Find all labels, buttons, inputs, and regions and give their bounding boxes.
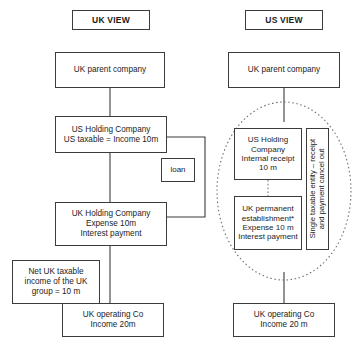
uk-holding-company-label: UK Holding Company Expense 10m Interest … [56,209,166,238]
us-operating-co-label: UK operating Co Income 20 m [234,310,334,329]
us-parent-company-box: UK parent company [228,52,340,88]
uk-permanent-establishment-label: UK permanent establishment* Expense 10 m… [235,204,301,242]
header-us-view-label: US VIEW [246,15,322,25]
tax-structure-diagram: UK VIEW US VIEW UK parent company US Hol… [0,0,364,355]
net-uk-taxable-income-box: Net UK taxable income of the UK group = … [12,260,100,304]
us-operating-co-box: UK operating Co Income 20 m [233,303,335,337]
loan-box: loan [161,158,195,182]
uk-permanent-establishment-box: UK permanent establishment* Expense 10 m… [234,196,302,250]
us-holding-company-box: US Holding Company Internal receipt 10 m [234,128,302,180]
header-uk-view-label: UK VIEW [73,15,149,25]
uk-operating-co-label: UK operating Co Income 20m [63,310,163,329]
uk-operating-co-box: UK operating Co Income 20m [62,303,164,337]
uk-us-holding-company-box: US Holding Company US taxable = Income 1… [55,116,167,153]
net-uk-taxable-income-label: Net UK taxable income of the UK group = … [13,267,99,296]
header-us-view: US VIEW [245,10,323,30]
single-taxable-entity-annotation-label: Single taxable entity – receipt and paym… [306,139,329,238]
loan-label: loan [162,165,194,174]
single-taxable-entity-annotation-box: Single taxable entity – receipt and paym… [306,128,329,250]
header-uk-view: UK VIEW [72,10,150,30]
us-parent-company-label: UK parent company [229,65,339,75]
uk-us-holding-company-label: US Holding Company US taxable = Income 1… [56,125,166,144]
uk-holding-company-box: UK Holding Company Expense 10m Interest … [55,202,167,246]
uk-parent-company-label: UK parent company [56,65,164,75]
us-holding-company-label: US Holding Company Internal receipt 10 m [235,135,301,173]
uk-parent-company-box: UK parent company [55,52,165,88]
